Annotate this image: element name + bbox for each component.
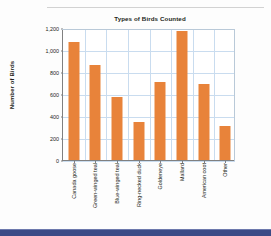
- bar-series: [63, 29, 235, 160]
- y-axis-tick-label: 400: [50, 114, 59, 120]
- y-axis-tick-label: 800: [50, 70, 59, 76]
- x-axis-tick-label: Green-winged teal: [92, 163, 98, 208]
- bar: [68, 42, 79, 160]
- y-axis-tick-label: 1,000: [46, 48, 60, 54]
- x-axis-tick-label: Mallard: [179, 163, 185, 181]
- bar-slot: [150, 29, 172, 160]
- bar: [198, 84, 209, 160]
- x-axis-tick-label: Canada goose: [71, 163, 77, 199]
- bar: [155, 82, 166, 160]
- gridline-horizontal: [63, 161, 235, 162]
- y-axis-tick-label: 1,200: [46, 26, 60, 32]
- bar: [112, 97, 123, 160]
- page-top-rule: [47, 7, 264, 8]
- x-axis-tick-label: Other: [222, 163, 228, 177]
- y-axis-tick-label: 600: [50, 92, 59, 98]
- bar: [176, 31, 187, 160]
- page-bottom-band: [0, 229, 271, 236]
- bar-slot: [63, 29, 85, 160]
- page-bottom-band-highlight: [0, 229, 271, 230]
- bar-slot: [85, 29, 107, 160]
- chart-title: Types of Birds Counted: [60, 15, 240, 22]
- x-axis-tick-label: American coot: [201, 163, 207, 198]
- bar-slot: [171, 29, 193, 160]
- x-axis-tick-label: Blue-winged teal: [114, 163, 120, 204]
- y-axis-tick-mark: [61, 161, 63, 162]
- bar: [90, 65, 101, 160]
- bar-slot: [106, 29, 128, 160]
- bar-slot: [193, 29, 215, 160]
- bar: [220, 126, 231, 160]
- bar-slot: [128, 29, 150, 160]
- bar: [133, 122, 144, 160]
- y-axis-title: Number of Birds: [9, 50, 15, 120]
- bar-slot: [214, 29, 236, 160]
- y-axis-tick-label: 0: [56, 158, 59, 164]
- screenshot-page: Types of Birds Counted Number of Birds 0…: [0, 0, 271, 236]
- bar-chart-figure: Types of Birds Counted Number of Birds 0…: [0, 10, 271, 226]
- x-axis-tick-label: Goldeneye: [157, 163, 163, 190]
- y-axis-tick-label: 200: [50, 136, 59, 142]
- plot-area: 02004006008001,0001,200 Canada gooseGree…: [62, 29, 235, 161]
- x-axis-tick-label: Ring-necked duck: [136, 163, 142, 207]
